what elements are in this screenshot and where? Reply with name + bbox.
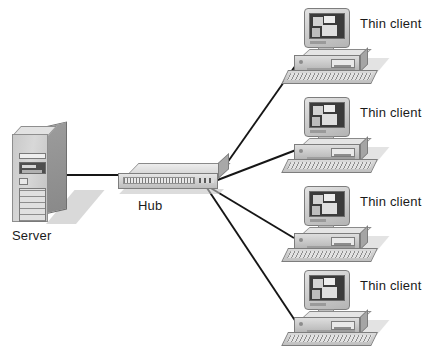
server-vent-grid-icon — [19, 188, 46, 222]
hub-port-strip-icon — [123, 177, 195, 184]
keyboard-icon — [281, 159, 378, 173]
server-label: Server — [12, 228, 52, 243]
monitor-controls-icon — [310, 219, 326, 222]
keyboard-icon — [281, 70, 378, 84]
keyboard-keys — [287, 162, 372, 169]
floppy-drive-icon — [331, 59, 355, 68]
keyboard-keys — [287, 73, 372, 80]
keyboard-icon — [281, 332, 378, 346]
monitor-icon — [304, 8, 350, 48]
hub-front-panel — [118, 173, 218, 189]
link-hub-client-4 — [207, 188, 296, 322]
monitor-screen — [309, 13, 345, 39]
thin-client-label-3: Thin client — [360, 194, 421, 209]
screen-graphic-c — [312, 28, 320, 37]
thin-client-label-4: Thin client — [360, 278, 421, 293]
floppy-drive-icon — [331, 148, 355, 157]
thin-client-label-1: Thin client — [360, 16, 421, 31]
keyboard-keys — [287, 335, 372, 342]
monitor-icon — [304, 186, 350, 226]
screen-graphic-b — [324, 105, 335, 112]
server-front-panel — [12, 134, 48, 222]
screen-graphic-b — [324, 278, 335, 285]
floppy-drive-icon — [331, 321, 355, 330]
hub-led-indicators-icon — [199, 178, 214, 183]
hub-shadow — [119, 189, 224, 194]
screen-graphic-c — [312, 290, 320, 299]
screen-graphic-d — [322, 25, 337, 36]
floppy-drive-icon — [331, 237, 355, 246]
hub-label: Hub — [138, 198, 162, 213]
server-side-panel — [47, 121, 67, 214]
screen-graphic-c — [312, 206, 320, 215]
server-drive-bay-icon — [19, 153, 46, 159]
power-button-icon — [299, 322, 303, 326]
screen-graphic-d — [322, 114, 337, 125]
hub-node — [118, 163, 228, 199]
monitor-screen — [309, 275, 345, 301]
power-button-icon — [299, 238, 303, 242]
monitor-controls-icon — [310, 41, 326, 44]
power-button-icon — [299, 149, 303, 153]
screen-graphic-b — [324, 16, 335, 23]
server-power-badge-icon — [19, 178, 28, 185]
server-display-panel-icon — [19, 162, 46, 174]
power-button-icon — [299, 60, 303, 64]
monitor-controls-icon — [310, 130, 326, 133]
screen-graphic-b — [324, 194, 335, 201]
thin-client-label-2: Thin client — [360, 105, 421, 120]
server-node — [10, 126, 80, 228]
monitor-screen — [309, 102, 345, 128]
monitor-icon — [304, 97, 350, 137]
monitor-icon — [304, 270, 350, 310]
screen-graphic-c — [312, 117, 320, 126]
screen-graphic-d — [322, 203, 337, 214]
network-diagram: Server Hub — [0, 0, 432, 353]
monitor-screen — [309, 191, 345, 217]
keyboard-keys — [287, 251, 372, 258]
keyboard-icon — [281, 248, 378, 262]
monitor-controls-icon — [310, 303, 326, 306]
screen-graphic-d — [322, 287, 337, 298]
